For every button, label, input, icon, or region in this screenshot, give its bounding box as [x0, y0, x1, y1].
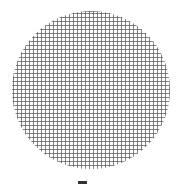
figure-caption — [78, 178, 89, 184]
caption-mark — [78, 181, 87, 184]
grid-circle — [12, 11, 170, 169]
